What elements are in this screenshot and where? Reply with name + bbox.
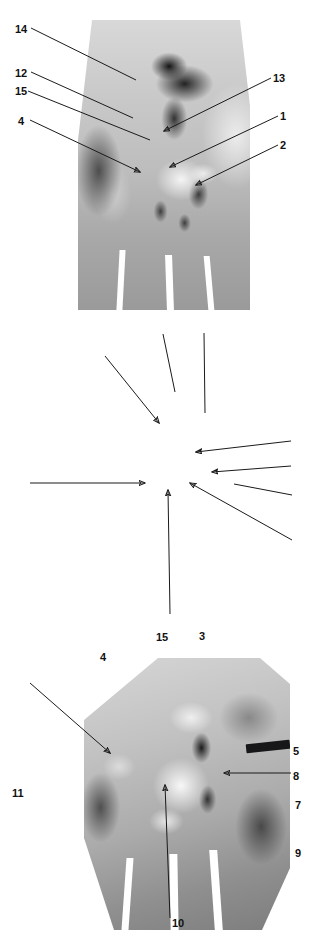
- label-14: 14: [15, 24, 27, 35]
- label-1: 1: [280, 111, 286, 122]
- specimen-photograph-1: [78, 20, 250, 310]
- label-2: 2: [280, 140, 286, 151]
- panel-oblique-view: 15 3 4 11 5 8 7 9 10: [0, 310, 313, 620]
- label-15: 15: [15, 86, 27, 97]
- panel-dorsal-view: 14 12 15 4 13 1 2: [0, 0, 313, 310]
- panel-articular-surface-view: B C A D D' A' C' B' 4 6 5: [0, 620, 313, 931]
- photo-texture-1: [78, 20, 250, 310]
- label-12: 12: [15, 68, 27, 79]
- figure-sheet: 14 12 15 4 13 1 2 15 3 4 11 5 8 7 9 10: [0, 0, 313, 931]
- label-13: 13: [273, 73, 285, 84]
- label-4: 4: [18, 116, 24, 127]
